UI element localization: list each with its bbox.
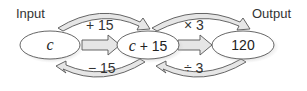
input-label: Input — [16, 6, 45, 21]
node-output-text: 120 — [212, 37, 274, 53]
variable-c: c — [46, 36, 53, 53]
node-input-text: c — [20, 36, 80, 54]
output-label: Output — [252, 6, 291, 21]
inverse-op-subtract: − 15 — [88, 60, 116, 76]
variable-c: c — [129, 37, 136, 54]
forward-op-multiply: × 3 — [184, 17, 204, 33]
inverse-op-divide: ÷ 3 — [184, 60, 203, 76]
middle-expression: + 15 — [136, 38, 168, 54]
straight-arrow-1 — [82, 35, 120, 55]
function-machine-diagram: Input Output + 15 × 3 − 15 ÷ 3 c c + 15 … — [0, 0, 307, 91]
forward-op-add: + 15 — [86, 17, 114, 33]
node-middle-text: c + 15 — [117, 37, 179, 55]
